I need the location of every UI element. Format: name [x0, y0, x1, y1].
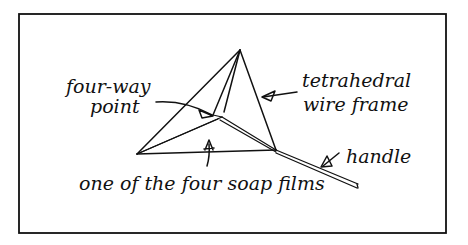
label-wire-frame: wire frame — [303, 93, 408, 115]
tetrahedral-soap-film-diagram: four-way point tetrahedral wire frame ha… — [0, 0, 468, 245]
label-tetrahedral: tetrahedral — [302, 69, 411, 91]
label-four-way: four-way — [64, 75, 151, 97]
arrow-four-way-point — [156, 102, 212, 115]
label-point: point — [90, 95, 140, 117]
arrow-soap-film — [207, 144, 209, 166]
label-soap-films: one of the four soap films — [79, 172, 325, 194]
label-handle: handle — [346, 145, 411, 167]
